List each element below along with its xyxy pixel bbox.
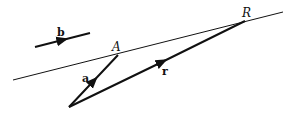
vector-b-label: b	[57, 26, 65, 39]
vector-r-arrow	[69, 21, 245, 107]
vector-r-label: r	[162, 65, 168, 78]
vector-a-label: a	[82, 72, 89, 85]
vector-a-arrow	[69, 55, 118, 107]
point-A-label: A	[111, 40, 121, 54]
point-R-label: R	[241, 6, 251, 20]
vector-line-diagram: b a A r R	[0, 0, 297, 120]
